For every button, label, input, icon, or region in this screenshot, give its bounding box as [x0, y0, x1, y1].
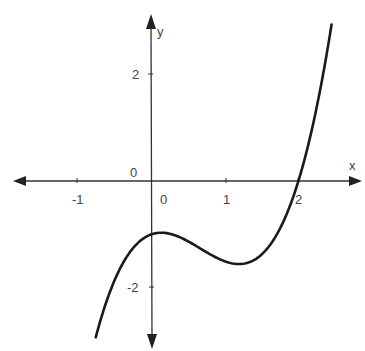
x-axis-left-arrow-icon	[13, 176, 26, 186]
y-axis-up-arrow-icon	[146, 14, 156, 29]
x-tick-label: -1	[72, 192, 84, 207]
y-tick-label: -2	[127, 280, 139, 295]
y-axis-label: y	[157, 24, 164, 39]
x-tick-label: 0	[160, 192, 167, 207]
y-axis	[151, 22, 152, 342]
y-axis-down-arrow-icon	[147, 334, 157, 349]
function-plot: y x 0 -1 0 1 2 2 -2	[0, 0, 365, 351]
x-tick-label: 2	[295, 192, 302, 207]
x-axis-label: x	[349, 158, 356, 173]
origin-label: 0	[130, 165, 137, 180]
x-axis-right-arrow-icon	[349, 176, 362, 186]
y-tick-label: 2	[132, 67, 139, 82]
x-tick-label: 1	[223, 192, 230, 207]
